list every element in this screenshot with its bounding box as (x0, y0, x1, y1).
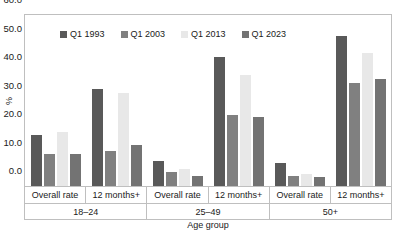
bar-cluster (208, 15, 269, 186)
legend-item[interactable]: Q1 2023 (242, 29, 287, 39)
bar-cluster (25, 15, 86, 186)
legend-label: Q1 2023 (252, 29, 287, 39)
bar (153, 161, 164, 186)
bar-cluster (269, 15, 330, 186)
bar (301, 174, 312, 186)
bar (362, 53, 373, 186)
y-tick-label: 60.0 (0, 0, 22, 5)
y-tick-label: 10.0 (0, 138, 22, 148)
legend: Q1 1993Q1 2003Q1 2013Q1 2023 (60, 29, 286, 39)
plot-area (25, 15, 391, 186)
bar (275, 163, 286, 186)
bar-cluster (147, 15, 208, 186)
y-tick-label: 0.0 (0, 166, 22, 176)
bar (240, 75, 251, 186)
y-tick-label: 30.0 (0, 81, 22, 91)
bar (349, 83, 360, 186)
category-tick-label: 12 months+ (330, 187, 392, 204)
bar (31, 135, 42, 186)
group-tick-label: 50+ (269, 204, 392, 220)
legend-swatch-icon (242, 31, 249, 38)
bar (57, 132, 68, 186)
x-axis-title: Age group (24, 220, 392, 230)
bar (214, 57, 225, 186)
category-tick-label: 12 months+ (208, 187, 269, 204)
bar (118, 93, 129, 186)
legend-item[interactable]: Q1 2013 (181, 29, 226, 39)
group-axis-row: 18–2425–4950+ (24, 204, 392, 220)
category-tick-label: Overall rate (269, 187, 330, 204)
legend-label: Q1 2013 (191, 29, 226, 39)
legend-label: Q1 1993 (70, 29, 105, 39)
bar (179, 169, 190, 186)
bar (336, 36, 347, 186)
bar (375, 79, 386, 186)
legend-label: Q1 2003 (131, 29, 166, 39)
legend-item[interactable]: Q1 1993 (60, 29, 105, 39)
bar (288, 176, 299, 186)
bar (131, 145, 142, 186)
legend-item[interactable]: Q1 2003 (121, 29, 166, 39)
bar-cluster (330, 15, 391, 186)
bar-chart: % 60.050.040.030.020.010.00.0 Q1 1993Q1 … (0, 0, 398, 242)
bar (166, 172, 177, 186)
y-tick-label: 40.0 (0, 52, 22, 62)
bar (192, 176, 203, 186)
bar-cluster (86, 15, 147, 186)
bar (227, 115, 238, 186)
bar (70, 154, 81, 186)
category-tick-label: Overall rate (24, 187, 85, 204)
y-axis-ticks: 60.050.040.030.020.010.00.0 (0, 0, 22, 173)
bar (92, 89, 103, 186)
group-tick-label: 18–24 (24, 204, 146, 220)
legend-swatch-icon (181, 31, 188, 38)
bar (253, 117, 264, 186)
group-tick-label: 25–49 (146, 204, 268, 220)
bar (105, 151, 116, 186)
y-tick-label: 50.0 (0, 24, 22, 34)
legend-swatch-icon (60, 31, 67, 38)
legend-swatch-icon (121, 31, 128, 38)
category-tick-label: 12 months+ (85, 187, 146, 204)
bar (314, 177, 325, 186)
category-tick-label: Overall rate (146, 187, 207, 204)
y-tick-label: 20.0 (0, 109, 22, 119)
category-axis-row: Overall rate12 months+Overall rate12 mon… (24, 187, 392, 204)
bar (44, 154, 55, 186)
